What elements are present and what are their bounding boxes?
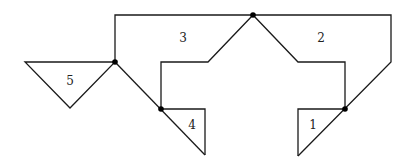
right-vertex-dot <box>342 106 348 112</box>
middle-left-vertex-dot <box>158 106 164 112</box>
diagram-canvas: 1 2 3 4 5 <box>0 0 410 166</box>
region-label-1: 1 <box>309 118 317 132</box>
region-label-4: 4 <box>188 118 196 132</box>
region-label-5: 5 <box>66 74 74 88</box>
region-label-2: 2 <box>317 31 325 45</box>
left-vertex-dot <box>112 59 118 65</box>
top-vertex-dot <box>250 12 256 18</box>
region-3-inner-boundary <box>161 15 253 109</box>
region-2-inner-boundary <box>253 15 345 109</box>
region-label-3: 3 <box>179 31 187 45</box>
outer-boundary <box>115 15 391 156</box>
